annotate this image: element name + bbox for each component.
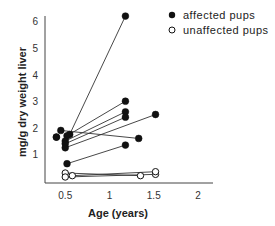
connector-line	[65, 117, 125, 144]
connector-line	[67, 101, 125, 136]
legend-open-marker-icon	[169, 27, 175, 33]
x-tick-label: 1.5	[147, 190, 161, 201]
unaffected-point	[62, 174, 68, 180]
unaffected-point	[69, 172, 75, 178]
y-axis-title: mg/g dry weight liver	[16, 46, 28, 157]
y-tick-label: 4	[32, 70, 38, 81]
unaffected-point	[137, 172, 143, 178]
x-tick-label: 1	[107, 190, 113, 201]
affected-point	[64, 160, 71, 167]
affected-point	[122, 13, 129, 20]
scatter-chart: 1234560.511.52 affected pups unaffected …	[0, 0, 275, 226]
y-tick-label: 2	[32, 123, 38, 134]
affected-point	[122, 114, 129, 121]
connector-line	[67, 145, 125, 164]
legend: affected pups unaffected pups	[169, 9, 269, 36]
affected-point	[53, 134, 60, 141]
affected-point	[62, 144, 69, 151]
unaffected-point	[152, 168, 158, 174]
x-tick-label: 2	[195, 190, 201, 201]
y-tick-label: 3	[32, 96, 38, 107]
affected-point	[152, 111, 159, 118]
plot-area	[53, 13, 159, 181]
affected-point	[122, 98, 129, 105]
affected-point	[57, 127, 64, 134]
affected-point	[135, 135, 142, 142]
affected-points	[53, 13, 159, 167]
legend-label-affected: affected pups	[183, 9, 255, 21]
affected-point	[122, 142, 129, 149]
x-axis-title: Age (years)	[88, 207, 148, 219]
y-tick-label: 5	[32, 43, 38, 54]
legend-label-unaffected: unaffected pups	[183, 24, 269, 36]
x-tick-label: 0.5	[58, 190, 72, 201]
y-tick-label: 1	[32, 149, 38, 160]
y-tick-label: 6	[32, 16, 38, 27]
connector-line	[70, 16, 126, 134]
affected-lines	[61, 16, 156, 164]
legend-filled-marker-icon	[169, 12, 175, 18]
